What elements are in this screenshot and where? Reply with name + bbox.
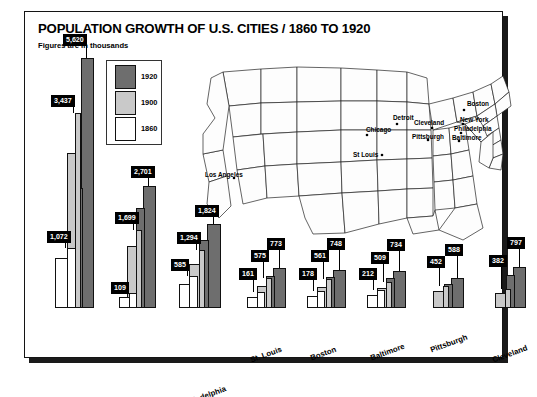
leader-1860-st-louis bbox=[253, 280, 254, 292]
leader-1920-pittsburgh bbox=[457, 256, 458, 278]
leader-1860-boston bbox=[313, 280, 314, 291]
bar-1900-pittsburgh-step bbox=[443, 286, 449, 308]
leader-1900-boston bbox=[323, 262, 324, 279]
value-1920-cleveland: 797 bbox=[507, 237, 525, 249]
bar-1900-st-louis-step bbox=[266, 278, 272, 308]
bar-1900-baltimore-step bbox=[386, 282, 392, 308]
leader-1860-new-york bbox=[65, 243, 66, 248]
value-1860-philadelphia: 585 bbox=[171, 259, 189, 271]
category-label-philadelphia: Philadelphia bbox=[181, 384, 227, 397]
leader-1900-philadelphia bbox=[196, 244, 197, 250]
value-1920-st-louis: 773 bbox=[267, 238, 285, 250]
leader-1920-st-louis bbox=[279, 250, 280, 268]
value-1900-boston: 561 bbox=[311, 250, 329, 262]
value-1900-new-york: 3,437 bbox=[51, 95, 75, 107]
value-1900-baltimore: 509 bbox=[371, 252, 389, 264]
value-1900-st-louis: 575 bbox=[251, 250, 269, 262]
value-1920-boston: 748 bbox=[327, 238, 345, 250]
bar-1860-baltimore-step bbox=[377, 290, 385, 308]
leader-1920-boston bbox=[339, 250, 340, 270]
page-title: POPULATION GROWTH OF U.S. CITIES / 1860 … bbox=[38, 21, 370, 36]
bar-1860-new-york-step bbox=[67, 248, 76, 308]
value-1920-chicago: 2,701 bbox=[131, 166, 155, 178]
bar-1860-boston-step bbox=[317, 291, 325, 308]
value-1860-baltimore: 212 bbox=[359, 268, 377, 280]
value-1860-chicago: 109 bbox=[111, 282, 129, 294]
leader-1860-philadelphia bbox=[187, 271, 188, 276]
value-1900-pittsburgh: 452 bbox=[427, 256, 445, 268]
value-1900-philadelphia: 1,294 bbox=[177, 232, 201, 244]
leader-1900-chicago bbox=[133, 224, 134, 230]
value-1900-cleveland: 382 bbox=[489, 255, 507, 267]
value-1860-st-louis: 161 bbox=[239, 268, 257, 280]
poster-card: POPULATION GROWTH OF U.S. CITIES / 1860 … bbox=[24, 11, 503, 358]
value-1860-boston: 178 bbox=[299, 268, 317, 280]
leader-1920-baltimore bbox=[399, 251, 400, 271]
bar-1860-philadelphia-step bbox=[189, 276, 198, 308]
bar-1860-st-louis-step bbox=[257, 292, 265, 308]
value-1920-philadelphia: 1,824 bbox=[195, 205, 219, 217]
bar-1900-boston-step bbox=[326, 279, 332, 308]
poster-root: POPULATION GROWTH OF U.S. CITIES / 1860 … bbox=[0, 0, 537, 397]
bar-1900-cleveland-step bbox=[505, 289, 511, 308]
value-1900-chicago: 1,699 bbox=[115, 212, 139, 224]
leader-1920-chicago bbox=[148, 178, 149, 186]
leader-1920-cleveland bbox=[519, 249, 520, 267]
leader-1920-philadelphia bbox=[213, 217, 214, 224]
leader-1900-st-louis bbox=[263, 262, 264, 278]
bar-1920-philadelphia bbox=[207, 224, 221, 308]
value-1920-pittsburgh: 588 bbox=[445, 244, 463, 256]
leader-1900-new-york bbox=[73, 107, 74, 113]
leader-1920-new-york bbox=[86, 46, 87, 58]
leader-1900-baltimore bbox=[383, 264, 384, 282]
category-label-pittsburgh: Pittsburgh bbox=[429, 333, 469, 355]
category-label-cleveland: Cleveland bbox=[491, 343, 529, 364]
value-1860-new-york: 1,072 bbox=[47, 231, 71, 243]
bar-chart: 5,620 3,437 1,072 New York 2,701 1,699 1 bbox=[31, 52, 501, 352]
bar-1860-chicago-step bbox=[129, 293, 137, 308]
leader-1860-baltimore bbox=[373, 280, 374, 290]
value-1920-new-york: 5,620 bbox=[63, 34, 87, 46]
bar-1900-philadelphia-step bbox=[199, 250, 205, 308]
leader-1900-pittsburgh bbox=[439, 268, 440, 286]
value-1920-baltimore: 734 bbox=[387, 239, 405, 251]
leader-1900-cleveland bbox=[501, 267, 502, 289]
